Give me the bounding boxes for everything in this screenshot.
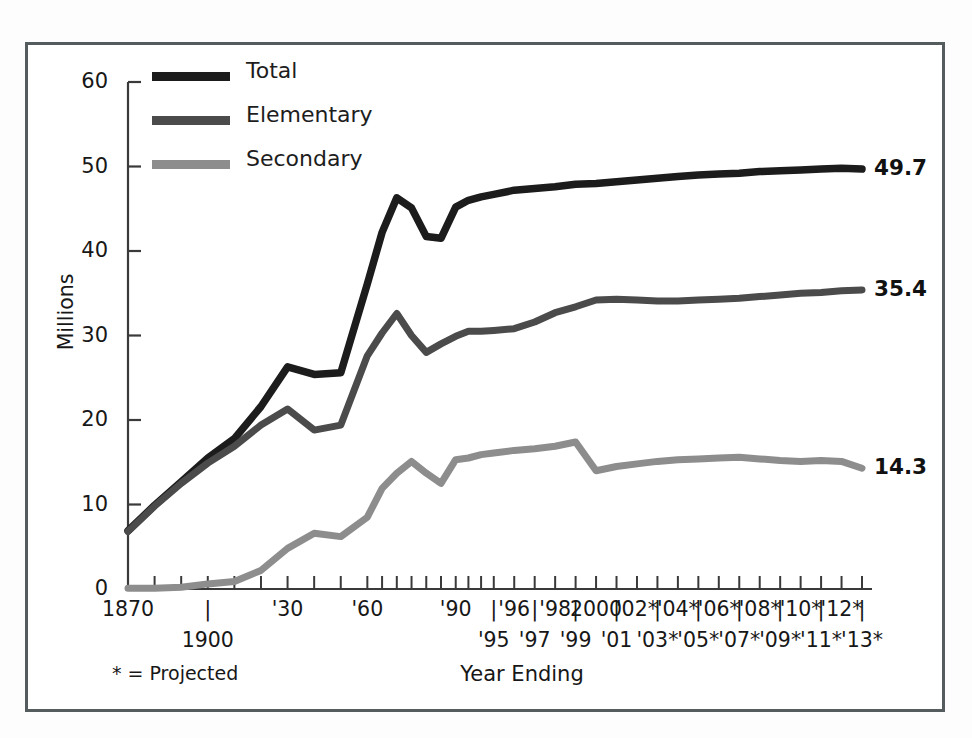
x-tick-label: '08* [739,597,781,621]
x-tick-label: '13* [841,628,883,652]
x-tick-label: '03* [636,628,678,652]
x-label-separator: | [204,597,211,621]
y-tick-40: 40 [60,238,108,262]
x-tick-label: '95 [478,628,510,652]
series-line-secondary [128,442,862,588]
x-tick-label: 1870 [102,597,154,621]
y-tick-50: 50 [60,154,108,178]
x-tick-label: '97 [519,628,551,652]
x-label-separator: | [818,597,825,621]
x-tick-label: '10* [780,597,822,621]
x-tick-label: '01 [601,628,633,652]
x-tick-label: '07* [718,628,760,652]
x-tick-label: '09* [759,628,801,652]
y-tick-10: 10 [60,492,108,516]
x-tick-label: '90 [440,597,472,621]
x-tick-label: '05* [677,628,719,652]
secondary-end-label: 14.3 [874,454,927,479]
legend-swatch-total [152,72,230,81]
legend-swatch-elementary [152,116,230,125]
y-tick-30: 30 [60,323,108,347]
x-tick-label: '99 [560,628,592,652]
projected-footnote: * = Projected [112,662,238,684]
x-tick-label: '96 [498,597,530,621]
total-end-label: 49.7 [874,155,927,180]
y-tick-60: 60 [60,69,108,93]
x-label-separator: | [695,597,702,621]
x-axis-title: Year Ending [460,662,584,686]
x-label-separator: | [654,597,661,621]
series-line-total [128,168,862,531]
x-tick-label: '11* [800,628,842,652]
x-tick-label: '04* [657,597,699,621]
x-tick-label: '06* [698,597,740,621]
axis-lines [128,82,872,589]
x-label-separator: | [490,597,497,621]
y-tick-20: 20 [60,407,108,431]
x-label-separator: | [736,597,743,621]
elementary-end-label: 35.4 [874,276,927,301]
x-tick-label: '60 [351,597,383,621]
x-label-separator: | [531,597,538,621]
x-tick-label: '02* [616,597,658,621]
x-tick-label: '30 [272,597,304,621]
legend-label-secondary: Secondary [246,146,363,171]
series-line-elementary [128,290,862,532]
x-label-separator: | [572,597,579,621]
x-label-separator: | [613,597,620,621]
x-tick-label: '12* [821,597,863,621]
y-tick-0: 0 [60,576,108,600]
x-tick-label: 1900 [182,628,234,652]
data-series-group [128,168,862,588]
legend-label-elementary: Elementary [246,102,373,127]
legend-swatch-secondary [152,160,230,169]
x-label-separator: | [858,597,865,621]
x-label-separator: | [777,597,784,621]
legend-label-total: Total [246,58,297,83]
x-tick-label: '98 [539,597,571,621]
chart-page: Millions Year Ending * = Projected 01020… [0,0,972,738]
